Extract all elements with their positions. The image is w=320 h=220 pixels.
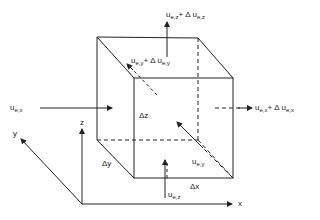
flux-in-x-label: ue,x	[10, 104, 22, 113]
flux-in-y-arrow	[177, 122, 203, 148]
cube-back-face	[97, 37, 198, 140]
flux-out-z-label: ue,z+ Δ ue,z	[166, 11, 205, 20]
y-axis-label: y	[13, 130, 17, 138]
delta-z-label: Δz	[139, 112, 148, 120]
delta-y-label: Δy	[102, 160, 111, 168]
flux-out-y-dash	[133, 70, 157, 95]
flux-out-x-label: ue,x+ Δ ue,x	[255, 104, 294, 113]
delta-x-label: Δx	[190, 183, 199, 191]
flux-in-z-label: ue,z	[168, 191, 180, 200]
x-axis-label: x	[238, 200, 242, 208]
control-volume-diagram: x y z Δx Δy Δz ue,x ue,x+ Δ ue,x ue,z+ Δ…	[0, 0, 320, 220]
flux-out-y-label: ue,y+ Δ ue,y	[131, 57, 170, 66]
z-axis-label: z	[80, 119, 84, 127]
flux-in-y-label: ue,y	[192, 158, 204, 167]
y-axis	[21, 139, 82, 204]
